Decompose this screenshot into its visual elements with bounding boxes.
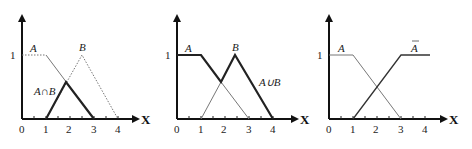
panel-intersection: 1 A B A∩B 0 1 2 3 4 X bbox=[10, 16, 151, 135]
intersection-label: A∩B bbox=[33, 85, 56, 97]
set-b-label: B bbox=[79, 41, 86, 53]
x-tick-0: 0 bbox=[326, 123, 332, 135]
x-tick-3: 3 bbox=[398, 123, 404, 135]
x-tick-4: 4 bbox=[422, 123, 428, 135]
x-axis-label: X bbox=[449, 112, 459, 127]
set-b-curve bbox=[46, 55, 118, 119]
panel-complement: 1 A A 0 1 2 3 4 X bbox=[317, 16, 459, 135]
y-tick-label: 1 bbox=[165, 49, 171, 61]
x-tick-2: 2 bbox=[221, 123, 227, 135]
x-tick-1: 1 bbox=[350, 123, 356, 135]
x-tick-2: 2 bbox=[373, 123, 379, 135]
set-a-label: A bbox=[184, 42, 192, 54]
panel-union: 1 A B A∪B 0 1 2 3 4 X bbox=[165, 16, 310, 135]
x-tick-0: 0 bbox=[19, 123, 25, 135]
x-tick-3: 3 bbox=[246, 123, 252, 135]
x-tick-1: 1 bbox=[43, 123, 49, 135]
union-label: A∪B bbox=[258, 76, 281, 88]
x-tick-1: 1 bbox=[198, 123, 204, 135]
x-tick-4: 4 bbox=[115, 123, 121, 135]
x-tick-4: 4 bbox=[270, 123, 276, 135]
y-tick-label: 1 bbox=[10, 49, 16, 61]
complement-curve bbox=[353, 55, 430, 119]
set-a-label: A bbox=[29, 42, 37, 54]
x-tick-0: 0 bbox=[174, 123, 180, 135]
set-b-lower-slope bbox=[201, 82, 221, 119]
complement-label: A bbox=[410, 42, 418, 54]
y-tick-label: 1 bbox=[317, 49, 323, 61]
x-tick-2: 2 bbox=[66, 123, 72, 135]
set-a-label: A bbox=[337, 42, 345, 54]
x-axis-label: X bbox=[300, 112, 310, 127]
set-b-label: B bbox=[232, 41, 239, 53]
fuzzy-set-operations-figure: 1 A B A∩B 0 1 2 3 4 X 1 A B A∪B bbox=[0, 0, 472, 149]
x-axis-label: X bbox=[141, 112, 151, 127]
x-tick-3: 3 bbox=[91, 123, 97, 135]
set-a-lower-slope bbox=[221, 82, 249, 119]
set-a-curve bbox=[329, 55, 401, 119]
